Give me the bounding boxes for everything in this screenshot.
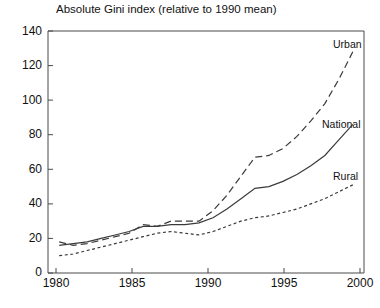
axis-frame: [48, 31, 364, 273]
chart-figure: Absolute Gini index (relative to 1990 me…: [0, 0, 380, 308]
chart-svg: [0, 0, 380, 308]
y-tick-marks: [48, 31, 53, 273]
series-layer: [59, 52, 353, 256]
series-line-urban: [59, 52, 353, 246]
x-tick-marks: [56, 268, 360, 273]
series-line-national: [59, 124, 353, 245]
cut-off-footer-text: [6, 297, 186, 306]
